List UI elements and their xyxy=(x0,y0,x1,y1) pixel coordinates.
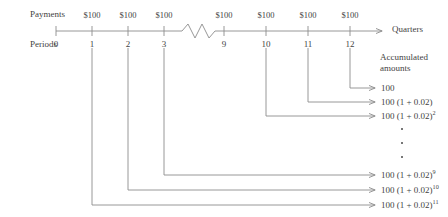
accumulated-amount-1-base: 100 xyxy=(381,83,395,93)
accumulated-amount-6: 100 (1 + 0.02)11 xyxy=(381,201,439,210)
accumulated-amount-1: 100 xyxy=(381,84,395,93)
accumulated-amount-3-base: 100 (1 + 0.02) xyxy=(381,111,433,121)
connector-from-2 xyxy=(128,48,375,190)
payment-amount-period-10: $100 xyxy=(258,11,275,20)
accumulated-amount-2-base: 100 (1 + 0.02) xyxy=(381,97,433,107)
period-number-9: 9 xyxy=(222,40,227,49)
accumulated-amount-6-exponent: 11 xyxy=(433,198,439,205)
payment-amount-period-9: $100 xyxy=(216,11,233,20)
payment-amount-period-1: $100 xyxy=(84,11,101,20)
accumulated-amount-2: 100 (1 + 0.02) xyxy=(381,98,433,107)
ellipsis-dot-3 xyxy=(401,156,403,158)
accumulated-amounts-title-line2: amounts xyxy=(380,63,428,74)
accumulated-amount-3: 100 (1 + 0.02)2 xyxy=(381,112,436,121)
accumulated-amount-5-exponent: 10 xyxy=(433,183,439,190)
axis-break-zigzag xyxy=(182,24,215,38)
accumulated-amounts-title-line1: Accumulated xyxy=(380,52,428,63)
accumulated-amounts-title: Accumulated amounts xyxy=(380,52,428,74)
period-number-12: 12 xyxy=(346,40,355,49)
accumulated-amount-3-exponent: 2 xyxy=(433,109,436,116)
connector-from-3 xyxy=(164,48,375,175)
period-number-11: 11 xyxy=(304,40,313,49)
payments-row-label: Payments xyxy=(30,10,65,19)
period-number-10: 10 xyxy=(262,40,271,49)
connector-from-11 xyxy=(308,48,375,102)
connector-from-1 xyxy=(92,48,375,205)
payment-amount-period-12: $100 xyxy=(342,11,359,20)
payment-amount-period-3: $100 xyxy=(156,11,173,20)
period-number-0: 0 xyxy=(54,40,59,49)
accumulated-amount-5: 100 (1 + 0.02)10 xyxy=(381,186,439,195)
period-number-1: 1 xyxy=(90,40,95,49)
payment-amount-period-2: $100 xyxy=(120,11,137,20)
accumulated-amount-4-base: 100 (1 + 0.02) xyxy=(381,170,433,180)
payment-amount-period-11: $100 xyxy=(300,11,317,20)
accumulated-amount-4-exponent: 9 xyxy=(433,168,436,175)
ellipsis-dot-2 xyxy=(401,142,403,144)
accumulated-amount-5-base: 100 (1 + 0.02) xyxy=(381,185,433,195)
period-number-3: 3 xyxy=(162,40,167,49)
quarters-axis-label: Quarters xyxy=(392,25,423,34)
connector-from-12 xyxy=(350,48,375,88)
ellipsis-dot-1 xyxy=(401,128,403,130)
annuity-timeline-diagram: Payments Periods Quarters $100 $100 $100… xyxy=(0,0,448,217)
connector-from-10 xyxy=(266,48,375,116)
period-number-2: 2 xyxy=(126,40,131,49)
accumulated-amount-6-base: 100 (1 + 0.02) xyxy=(381,200,433,210)
accumulated-amount-4: 100 (1 + 0.02)9 xyxy=(381,171,436,180)
